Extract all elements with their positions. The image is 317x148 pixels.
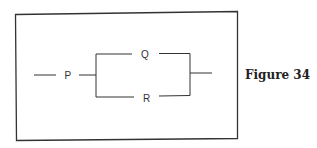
switch-label-q: Q (141, 49, 149, 60)
switch-label-p: P (65, 70, 72, 81)
figure-caption: Figure 34 (245, 68, 310, 82)
figure-container: P Q R Figure 34 (0, 0, 317, 148)
switch-label-r: R (143, 93, 150, 104)
lower-branch-right-wire (159, 96, 190, 97)
diagram-frame (16, 12, 238, 141)
